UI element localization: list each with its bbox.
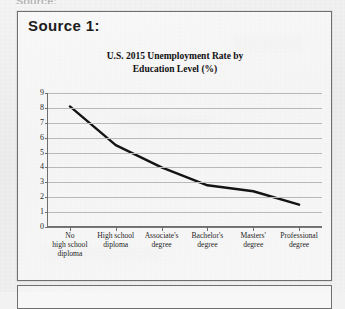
chart-title-line-2: Education Level (%) (19, 63, 331, 76)
y-tick-label-7: 7 (40, 119, 44, 127)
y-tick-mark-7 (45, 123, 48, 124)
chart-title-line-1: U.S. 2015 Unemployment Rate by (19, 50, 331, 63)
y-tick-mark-1 (45, 212, 48, 213)
y-tick-mark-0 (45, 227, 48, 228)
gridline-4 (47, 167, 322, 168)
gridline-3 (47, 182, 322, 183)
gridline-2 (47, 197, 322, 198)
y-tick-label-1: 1 (40, 208, 44, 216)
y-tick-label-2: 2 (40, 193, 44, 201)
gridline-6 (47, 138, 322, 139)
gridline-0 (47, 227, 322, 228)
y-tick-label-0: 0 (40, 223, 44, 231)
y-tick-mark-3 (45, 182, 48, 183)
gridline-9 (47, 93, 322, 94)
gridline-1 (47, 212, 322, 213)
source-container: Source 1: U.S. 2015 Unemployment Rate by… (17, 11, 332, 281)
secondary-source-container (17, 285, 332, 309)
y-tick-mark-9 (45, 93, 48, 94)
x-axis-labels: Nohigh schooldiplomaHigh schooldiplomaAs… (47, 231, 322, 275)
cut-off-heading: Source: (16, 0, 80, 4)
series-polyline (70, 106, 299, 204)
gridline-7 (47, 123, 322, 124)
chart: U.S. 2015 Unemployment Rate by Education… (19, 40, 331, 280)
y-tick-mark-2 (45, 197, 48, 198)
x-axis-label-5-line-1: degree (271, 240, 327, 249)
y-tick-mark-8 (45, 108, 48, 109)
x-axis-label-5: Professionaldegree (271, 231, 327, 249)
gridline-8 (47, 108, 322, 109)
chart-title: U.S. 2015 Unemployment Rate by Education… (19, 50, 331, 75)
plot-area: 0123456789 (47, 93, 322, 227)
gridline-5 (47, 153, 322, 154)
y-tick-label-4: 4 (40, 163, 44, 171)
y-tick-label-8: 8 (40, 104, 44, 112)
y-tick-label-3: 3 (40, 178, 44, 186)
x-axis-label-5-line-0: Professional (271, 231, 327, 240)
y-tick-mark-4 (45, 167, 48, 168)
y-tick-mark-6 (45, 138, 48, 139)
unemployment-rate-line (47, 93, 322, 227)
x-axis-label-0-line-2: diploma (42, 249, 98, 258)
y-tick-label-9: 9 (40, 89, 44, 97)
y-tick-mark-5 (45, 153, 48, 154)
source-label: Source 1: (28, 17, 100, 34)
y-tick-label-5: 5 (40, 149, 44, 157)
y-tick-label-6: 6 (40, 134, 44, 142)
